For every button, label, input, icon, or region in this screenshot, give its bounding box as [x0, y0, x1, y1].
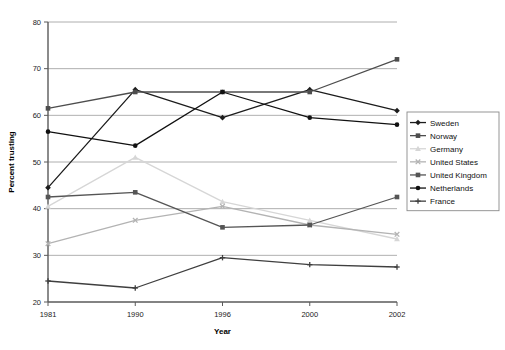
data-point-marker	[416, 173, 421, 178]
x-tick-label: 1981	[40, 310, 57, 319]
chart-container: 2030405060708019811990199620002002YearPe…	[0, 0, 505, 350]
data-point-marker	[307, 223, 312, 228]
legend-label: United Kingdom	[430, 171, 487, 180]
series-united-states	[46, 204, 400, 246]
x-tick-label: 2002	[389, 310, 406, 319]
data-point-marker	[133, 90, 138, 95]
data-point-marker	[220, 199, 226, 204]
x-tick-label: 2000	[301, 310, 318, 319]
data-point-marker	[394, 264, 399, 269]
data-point-marker	[132, 154, 138, 159]
data-point-marker	[395, 122, 400, 127]
data-point-marker	[395, 57, 400, 62]
data-point-marker	[45, 203, 51, 208]
data-point-marker	[416, 133, 421, 138]
y-tick-label: 80	[33, 18, 41, 27]
data-point-marker	[133, 190, 138, 195]
series-line	[48, 90, 397, 188]
data-point-marker	[394, 108, 400, 114]
legend-label: France	[430, 197, 455, 206]
data-point-marker	[133, 285, 138, 290]
grid-lines	[48, 22, 397, 255]
series-norway	[46, 57, 400, 111]
data-point-marker	[46, 195, 51, 200]
x-tick-label: 1990	[127, 310, 144, 319]
series-line	[48, 258, 397, 288]
series-united-kingdom	[46, 190, 400, 230]
line-chart: 2030405060708019811990199620002002YearPe…	[0, 0, 505, 350]
y-tick-label: 60	[33, 111, 41, 120]
data-point-marker	[133, 143, 138, 148]
data-point-marker	[45, 278, 50, 283]
data-point-marker	[416, 186, 421, 191]
legend-label: Sweden	[430, 119, 459, 128]
data-point-marker	[307, 90, 312, 95]
data-point-marker	[395, 195, 400, 200]
series-line	[48, 59, 397, 108]
x-axis-ticks: 19811990199620002002	[40, 302, 406, 319]
data-point-marker	[46, 129, 51, 134]
legend-label: Netherlands	[430, 184, 473, 193]
legend-label: United States	[430, 158, 478, 167]
y-tick-label: 20	[33, 298, 41, 307]
data-point-marker	[307, 115, 312, 120]
legend: SwedenNorwayGermanyUnited StatesUnited K…	[407, 112, 499, 211]
x-tick-label: 1996	[214, 310, 231, 319]
x-axis-title: Year	[214, 327, 231, 336]
y-axis-title: Percent trusting	[7, 131, 16, 192]
series-france	[45, 255, 399, 291]
series-line	[48, 206, 397, 243]
data-point-marker	[46, 106, 51, 111]
data-point-marker	[220, 225, 225, 230]
y-tick-label: 40	[33, 204, 41, 213]
y-tick-label: 30	[33, 251, 41, 260]
y-tick-label: 50	[33, 158, 41, 167]
data-point-marker	[307, 262, 312, 267]
legend-label: Norway	[430, 132, 457, 141]
data-point-marker	[220, 255, 225, 260]
series-line	[48, 192, 397, 227]
legend-label: Germany	[430, 145, 463, 154]
data-point-marker	[220, 90, 225, 95]
y-tick-label: 70	[33, 64, 41, 73]
series-sweden	[45, 87, 400, 191]
y-axis-ticks: 20304050607080	[33, 18, 48, 307]
